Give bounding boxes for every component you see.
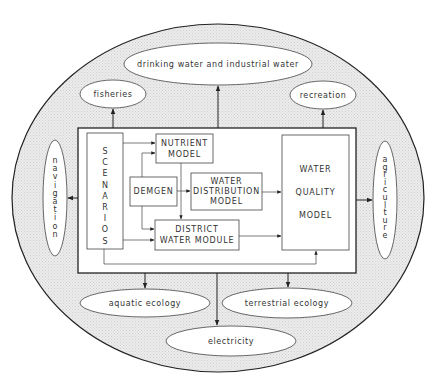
output-drinking-water: drinking water and industrial water: [124, 43, 312, 85]
scenarios-box: SCENARIOS: [87, 133, 123, 249]
aquatic-ecology-label: aquatic ecology: [109, 299, 181, 308]
drinking-water-label: drinking water and industrial water: [137, 60, 299, 69]
demgen-label: DEMGEN: [133, 187, 173, 196]
wdm-label-2: DISTRIBUTION: [193, 187, 260, 196]
dwm-label-1: DISTRICT: [175, 225, 218, 234]
vertical-letter: S: [102, 147, 107, 156]
fisheries-label: fisheries: [93, 90, 132, 99]
demgen-box: DEMGEN: [130, 177, 177, 206]
wqm-label-1: WATER: [300, 165, 332, 174]
diagram-canvas: drinking water and industrial water fish…: [0, 0, 435, 387]
wdm-label-3: MODEL: [210, 197, 243, 206]
nutrient-model-box: NUTRIENT MODEL: [156, 134, 213, 163]
nutrient-model-label-2: MODEL: [168, 150, 201, 159]
vertical-letter: e: [383, 231, 388, 240]
vertical-letter: E: [102, 169, 107, 178]
electricity-label: electricity: [208, 337, 254, 346]
water-quality-model-box: WATER QUALITY MODEL: [282, 135, 349, 250]
output-terrestrial-ecology: terrestrial ecology: [222, 288, 352, 318]
district-water-module-box: DISTRICT WATER MODULE: [155, 220, 239, 250]
terrestrial-ecology-label: terrestrial ecology: [245, 299, 329, 308]
vertical-letter: R: [102, 203, 108, 212]
recreation-label: recreation: [300, 91, 347, 100]
output-fisheries: fisheries: [80, 80, 146, 108]
vertical-letter: S: [102, 237, 107, 246]
vertical-letter: A: [102, 192, 108, 201]
vertical-letter: I: [104, 214, 106, 223]
vertical-letter: O: [102, 225, 108, 234]
wqm-label-2: QUALITY: [296, 188, 336, 197]
output-electricity: electricity: [166, 326, 296, 356]
wqm-label-3: MODEL: [299, 211, 332, 220]
vertical-letter: n: [52, 230, 57, 239]
nutrient-model-label-1: NUTRIENT: [161, 139, 208, 148]
wdm-label-1: WATER: [211, 177, 243, 186]
dwm-label-2: WATER MODULE: [160, 236, 235, 245]
output-recreation: recreation: [290, 81, 356, 109]
output-aquatic-ecology: aquatic ecology: [80, 289, 210, 317]
output-navigation: navigation: [43, 140, 67, 256]
water-distribution-model-box: WATER DISTRIBUTION MODEL: [191, 173, 262, 210]
vertical-letter: N: [102, 181, 108, 190]
output-agriculture: agriculture: [373, 141, 397, 259]
vertical-letter: C: [102, 158, 108, 167]
